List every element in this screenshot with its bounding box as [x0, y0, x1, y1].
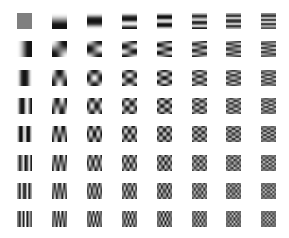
dct-basis-image: [87, 211, 102, 227]
dct-basis-cell: [17, 98, 32, 114]
dct-basis-image: [226, 70, 241, 86]
dct-basis-cell: [261, 98, 276, 114]
dct-basis-cell: [261, 211, 276, 227]
dct-basis-cell: [192, 126, 207, 142]
dct-basis-cell: [157, 211, 172, 227]
dct-basis-image: [17, 41, 32, 57]
dct-basis-cell: [122, 155, 137, 171]
dct-basis-cell: [52, 41, 67, 57]
dct-basis-image: [157, 13, 172, 29]
dct-basis-image: [226, 155, 241, 171]
dct-basis-image: [17, 211, 32, 227]
dct-basis-image: [52, 155, 67, 171]
dct-basis-cell: [17, 70, 32, 86]
dct-basis-image: [87, 183, 102, 199]
dct-basis-cell: [52, 126, 67, 142]
dct-basis-image: [122, 70, 137, 86]
dct-basis-image: [261, 155, 276, 171]
dct-basis-image: [192, 155, 207, 171]
dct-basis-image: [87, 13, 102, 29]
dct-basis-cell: [226, 183, 241, 199]
dct-basis-image: [122, 13, 137, 29]
dct-basis-cell: [87, 13, 102, 29]
dct-basis-cell: [122, 70, 137, 86]
dct-basis-cell: [192, 155, 207, 171]
dct-basis-image: [87, 41, 102, 57]
dct-basis-cell: [192, 183, 207, 199]
dct-basis-image: [52, 211, 67, 227]
dct-basis-image: [261, 98, 276, 114]
dct-basis-cell: [192, 211, 207, 227]
dct-basis-image: [261, 13, 276, 29]
dct-basis-image: [157, 41, 172, 57]
dct-basis-cell: [122, 126, 137, 142]
dct-basis-image: [192, 183, 207, 199]
dct-basis-cell: [87, 126, 102, 142]
dct-basis-cell: [122, 41, 137, 57]
dct-basis-cell: [157, 155, 172, 171]
dct-basis-cell: [226, 98, 241, 114]
dct-basis-cell: [226, 70, 241, 86]
dct-basis-cell: [157, 13, 172, 29]
dct-basis-cell: [17, 13, 32, 29]
dct-basis-image: [226, 98, 241, 114]
dct-basis-image: [122, 41, 137, 57]
dct-basis-image: [87, 126, 102, 142]
dct-basis-cell: [17, 183, 32, 199]
dct-basis-cell: [17, 155, 32, 171]
dct-basis-image: [226, 211, 241, 227]
dct-basis-image: [52, 98, 67, 114]
dct-basis-image: [17, 98, 32, 114]
dct-basis-image: [17, 70, 32, 86]
dct-basis-cell: [52, 155, 67, 171]
dct-basis-image: [52, 126, 67, 142]
dct-basis-cell: [226, 41, 241, 57]
dct-basis-cell: [122, 211, 137, 227]
dct-basis-cell: [87, 183, 102, 199]
dct-basis-cell: [87, 70, 102, 86]
dct-basis-image: [87, 155, 102, 171]
dct-basis-cell: [52, 98, 67, 114]
dct-basis-image: [192, 98, 207, 114]
dct-basis-image: [52, 13, 67, 29]
dct-basis-cell: [87, 155, 102, 171]
dct-basis-image: [226, 41, 241, 57]
dct-basis-image: [261, 183, 276, 199]
dct-basis-cell: [122, 98, 137, 114]
dct-basis-cell: [192, 41, 207, 57]
dct-basis-cell: [226, 13, 241, 29]
dct-basis-cell: [122, 13, 137, 29]
dct-basis-cell: [261, 70, 276, 86]
dct-basis-image: [157, 98, 172, 114]
dct-basis-image: [52, 41, 67, 57]
dct-basis-image: [157, 126, 172, 142]
dct-basis-image: [261, 211, 276, 227]
dct-basis-image: [192, 41, 207, 57]
dct-basis-image: [192, 70, 207, 86]
dct-basis-cell: [226, 155, 241, 171]
dct-basis-cell: [157, 98, 172, 114]
dct-basis-cell: [192, 98, 207, 114]
dct-basis-image: [122, 183, 137, 199]
dct-basis-image: [226, 13, 241, 29]
dct-basis-image: [17, 13, 32, 29]
dct-basis-cell: [52, 70, 67, 86]
dct-basis-image: [192, 126, 207, 142]
dct-basis-cell: [261, 126, 276, 142]
dct-basis-cell: [192, 13, 207, 29]
dct-basis-image: [157, 70, 172, 86]
dct-basis-image: [122, 155, 137, 171]
dct-basis-image: [157, 211, 172, 227]
dct-basis-grid: [0, 0, 289, 238]
dct-basis-cell: [157, 70, 172, 86]
dct-basis-cell: [157, 183, 172, 199]
dct-basis-cell: [52, 211, 67, 227]
dct-basis-cell: [226, 211, 241, 227]
dct-basis-image: [17, 183, 32, 199]
dct-basis-cell: [157, 126, 172, 142]
dct-basis-image: [17, 155, 32, 171]
dct-basis-image: [261, 41, 276, 57]
dct-basis-image: [122, 211, 137, 227]
dct-basis-image: [87, 98, 102, 114]
dct-basis-cell: [87, 211, 102, 227]
